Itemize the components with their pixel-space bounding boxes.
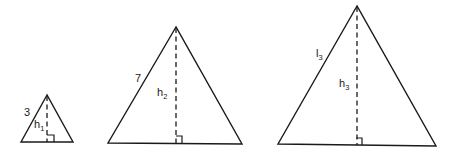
diagram-canvas: 3 h1 7 h2 l3 h3 (0, 0, 459, 157)
triangle-2-side-label: 7 (135, 72, 141, 84)
triangle-2-height-label: h2 (157, 86, 167, 101)
triangle-3-height-label: h3 (339, 77, 349, 92)
triangle-1-side-label: 3 (24, 106, 30, 118)
triangle-2-right-angle-marker (176, 136, 182, 143)
triangle-3: l3 h3 (278, 6, 436, 146)
triangle-1-right-angle-marker (47, 135, 54, 142)
triangle-2-outline (108, 27, 242, 144)
triangle-1-height-label: h1 (34, 118, 44, 133)
triangle-3-side-label: l3 (316, 47, 323, 62)
triangle-1: 3 h1 (21, 95, 73, 142)
triangle-2: 7 h2 (108, 27, 242, 144)
